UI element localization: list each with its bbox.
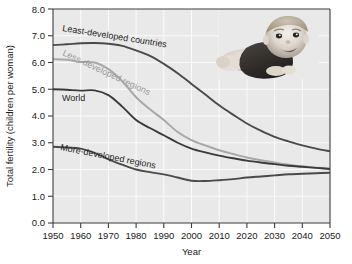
x-tick-4: 1990 bbox=[153, 230, 174, 241]
x-tick-labels: 1950 1960 1970 1980 1990 2000 2010 2020 … bbox=[42, 230, 340, 241]
y-tick-2: 2.0 bbox=[32, 164, 45, 175]
x-tick-5: 2000 bbox=[181, 230, 202, 241]
y-tick-1: 1.0 bbox=[32, 191, 45, 202]
x-tick-10: 2050 bbox=[319, 230, 340, 241]
y-axis-title: Total fertility (children per woman) bbox=[4, 45, 15, 187]
y-tick-8: 8.0 bbox=[32, 4, 45, 15]
x-tick-2: 1970 bbox=[98, 230, 119, 241]
y-tick-marks bbox=[48, 9, 53, 223]
y-tick-labels: 0.0 1.0 2.0 3.0 4.0 5.0 6.0 7.0 8.0 bbox=[32, 4, 45, 229]
chart-canvas: Least-developed countries Less-developed… bbox=[0, 0, 352, 264]
x-tick-marks bbox=[53, 223, 330, 228]
x-tick-6: 2010 bbox=[209, 230, 230, 241]
x-tick-0: 1950 bbox=[42, 230, 63, 241]
x-tick-7: 2020 bbox=[236, 230, 257, 241]
y-tick-6: 6.0 bbox=[32, 57, 45, 68]
curve-label-world: World bbox=[62, 93, 85, 103]
y-tick-3: 3.0 bbox=[32, 137, 45, 148]
y-tick-0: 0.0 bbox=[32, 217, 45, 228]
x-tick-1: 1960 bbox=[70, 230, 91, 241]
x-tick-8: 2030 bbox=[264, 230, 285, 241]
baby-photo bbox=[216, 9, 319, 79]
y-tick-7: 7.0 bbox=[32, 30, 45, 41]
y-tick-5: 5.0 bbox=[32, 84, 45, 95]
x-tick-9: 2040 bbox=[292, 230, 313, 241]
x-axis-title: Year bbox=[182, 246, 201, 257]
y-tick-4: 4.0 bbox=[32, 110, 45, 121]
x-tick-3: 1980 bbox=[126, 230, 147, 241]
fertility-chart-figure: Least-developed countries Less-developed… bbox=[0, 0, 352, 264]
